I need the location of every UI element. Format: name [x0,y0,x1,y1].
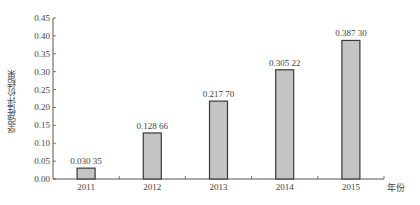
bar-2014 [276,70,294,179]
bar-value-label: 0.387 30 [335,28,367,38]
x-tick-label: 2014 [276,182,295,192]
y-tick-label: 0.10 [34,138,50,148]
x-tick-label: 2011 [77,182,95,192]
y-tick-label: 0.35 [34,49,50,59]
bar-value-label: 0.217 70 [203,89,235,99]
bar-2013 [210,101,228,179]
y-axis: 0.000.050.100.150.200.250.300.350.400.45 [34,13,56,184]
x-axis-label: 年份 [387,181,405,194]
bar-value-label: 0.030 35 [70,156,102,166]
y-tick-label: 0.00 [34,174,50,184]
y-tick-label: 0.05 [34,156,50,166]
x-tick-label: 2015 [342,182,361,192]
bar-value-label: 0.305 22 [269,58,301,68]
y-tick-label: 0.25 [34,85,50,95]
y-tick-label: 0.30 [34,67,50,77]
bar-2011 [77,168,95,179]
bar-chart: 0.000.050.100.150.200.250.300.350.400.45… [0,0,420,205]
bar-2012 [143,133,161,179]
y-tick-label: 0.45 [34,13,50,23]
bar-value-label: 0.128 66 [137,121,169,131]
y-axis-label: 坚强性评价结果 [4,52,18,152]
x-tick-label: 2013 [210,182,229,192]
y-tick-label: 0.15 [34,120,50,130]
bars: 0.030 350.128 660.217 700.305 220.387 30 [70,28,367,179]
y-tick-label: 0.40 [34,31,50,41]
y-tick-label: 0.20 [34,102,50,112]
bar-2015 [342,40,360,179]
x-tick-label: 2012 [143,182,161,192]
